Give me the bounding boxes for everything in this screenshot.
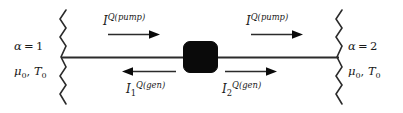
diagram-graphics-layer <box>0 0 403 113</box>
gen-arrow-right-icon <box>225 67 277 76</box>
pump-arrow-left-icon <box>108 30 160 39</box>
right-temperature-symbol: T <box>368 64 376 78</box>
right-alpha-value: 2 <box>370 39 377 53</box>
gen-current-right-label: I2Q(gen) <box>222 81 261 98</box>
gen-right-superscript: Q(gen) <box>232 80 261 90</box>
pump-current-left-label: IQ(pump) <box>103 13 145 27</box>
right-reservoir-index-label: α = 2 <box>348 41 377 53</box>
pump-right-superscript: Q(pump) <box>251 12 288 22</box>
gen-left-superscript: Q(gen) <box>136 80 165 90</box>
left-alpha-value: 1 <box>36 39 43 53</box>
left-alpha-equals: = <box>24 39 34 53</box>
gen-arrow-left-icon <box>122 67 176 76</box>
left-reservoir-state-label: μ0, T0 <box>14 66 47 80</box>
scattering-device <box>184 42 218 73</box>
left-alpha-symbol: α <box>14 39 22 53</box>
thermal-current-diagram: α = 1 μ0, T0 α = 2 μ0, T0 IQ(pump) IQ(pu… <box>0 0 403 113</box>
pump-left-superscript: Q(pump) <box>108 12 145 22</box>
pump-current-right-label: IQ(pump) <box>246 13 288 27</box>
left-temperature-symbol: T <box>34 64 42 78</box>
left-temperature-subscript: 0 <box>42 71 47 80</box>
left-reservoir-index-label: α = 1 <box>14 41 43 53</box>
right-reservoir-state-label: μ0, T0 <box>348 66 381 80</box>
pump-arrow-right-icon <box>251 30 303 39</box>
right-alpha-equals: = <box>358 39 368 53</box>
gen-current-left-label: I1Q(gen) <box>126 81 165 98</box>
right-alpha-symbol: α <box>348 39 356 53</box>
right-temperature-subscript: 0 <box>376 71 381 80</box>
